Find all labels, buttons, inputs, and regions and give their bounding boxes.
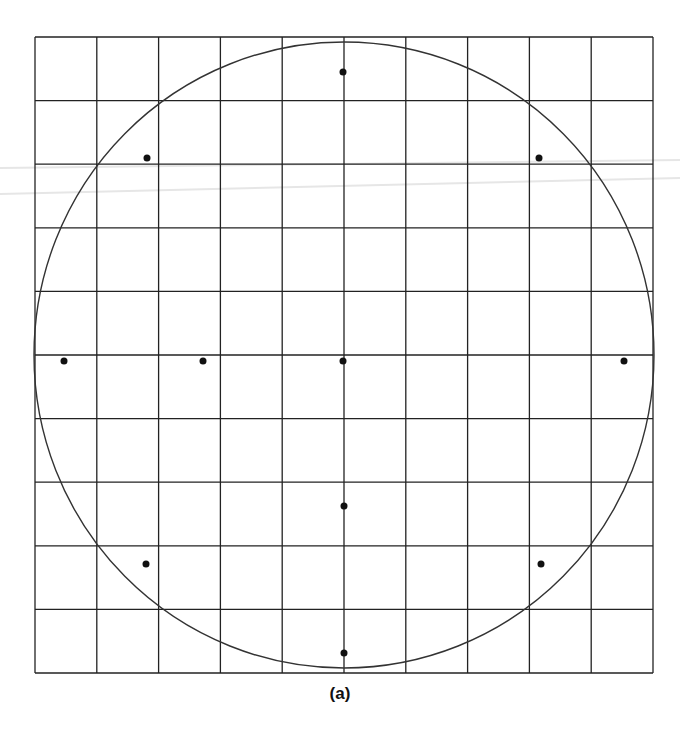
sample-point-upper-right (536, 155, 543, 162)
grid (35, 37, 653, 673)
sample-point-inner-left (200, 358, 207, 365)
sample-point-bottom (341, 650, 348, 657)
wafer-grid-diagram (0, 0, 680, 738)
sample-point-top (340, 69, 347, 76)
sample-point-lower-left (143, 561, 150, 568)
sample-point-far-right (621, 358, 628, 365)
sample-point-lower-center (341, 503, 348, 510)
scan-artifact-line (0, 178, 680, 194)
scan-artifact-lines (0, 160, 680, 194)
figure-caption: (a) (0, 684, 680, 704)
sample-point-center (340, 358, 347, 365)
sample-point-far-left (61, 358, 68, 365)
sample-point-lower-right (538, 561, 545, 568)
sample-point-upper-left (144, 155, 151, 162)
